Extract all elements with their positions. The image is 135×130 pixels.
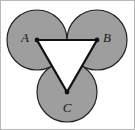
- vertex-a-dot: [35, 38, 40, 43]
- figure-container: A B C: [0, 0, 135, 130]
- vertex-c-dot: [65, 90, 70, 95]
- vertex-b-label: B: [103, 30, 111, 45]
- vertex-a-label: A: [20, 30, 29, 45]
- vertex-b-dot: [95, 38, 100, 43]
- vertex-c-label: C: [63, 100, 72, 115]
- tangent-circles-diagram: A B C: [0, 0, 135, 130]
